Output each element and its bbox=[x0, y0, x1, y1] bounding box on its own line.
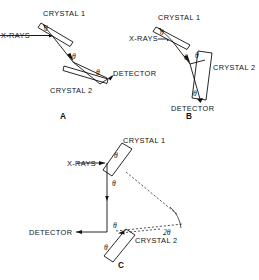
panel-b-crystal-1-label: CRYSTAL 1 bbox=[158, 13, 200, 22]
panel-a-theta-3: θ bbox=[96, 68, 100, 77]
panel-a-xrays-label: X-RAYS bbox=[1, 31, 30, 40]
panel-b-theta-4: θ bbox=[193, 89, 197, 98]
xray-diffractometer-figure: X-RAYS CRYSTAL 1 CRYSTAL 2 DETECTOR θ θ … bbox=[0, 0, 259, 280]
panel-c: X-RAYS CRYSTAL 1 CRYSTAL 2 DETECTOR 2θ θ… bbox=[29, 136, 183, 270]
panel-c-two-theta-arc bbox=[170, 207, 181, 228]
panel-c-theta-3: θ bbox=[113, 221, 117, 230]
panel-b-crystal-2-label: CRYSTAL 2 bbox=[213, 63, 255, 72]
panel-c-detector-label: DETECTOR bbox=[29, 228, 72, 237]
panel-c-crystal-2 bbox=[104, 229, 135, 262]
panel-a-theta-1: θ bbox=[44, 24, 48, 33]
panel-c-theta-1: θ bbox=[114, 151, 118, 160]
panel-a-crystal-2 bbox=[63, 66, 108, 84]
panel-a-crystal-2-label: CRYSTAL 2 bbox=[50, 86, 92, 95]
panel-c-detector-arrowhead bbox=[76, 230, 82, 234]
panel-c-dashed-line-2 bbox=[116, 224, 183, 231]
panel-a-crystal-1-label: CRYSTAL 1 bbox=[43, 9, 85, 18]
panel-c-xrays-label: X-RAYS bbox=[67, 159, 96, 168]
panel-b-theta-3: θ bbox=[195, 51, 199, 60]
panel-c-dashed-arrowhead bbox=[118, 231, 125, 235]
panel-c-crystal-1-label: CRYSTAL 1 bbox=[123, 136, 165, 145]
panel-c-theta-2: θ bbox=[112, 179, 116, 188]
panel-b-detector-label: DETECTOR bbox=[171, 104, 214, 113]
panel-c-theta-4: θ bbox=[104, 243, 108, 252]
panel-c-caption: C bbox=[118, 261, 124, 270]
panel-b-theta-1: θ bbox=[160, 28, 164, 37]
panel-b-theta-2: θ bbox=[184, 53, 188, 62]
panel-b-crystal-1 bbox=[153, 27, 190, 50]
panel-a: X-RAYS CRYSTAL 1 CRYSTAL 2 DETECTOR θ θ … bbox=[0, 9, 156, 121]
panel-a-theta-2: θ bbox=[72, 52, 76, 61]
panel-c-incident-arrowhead bbox=[99, 161, 105, 165]
panel-a-caption: A bbox=[60, 112, 66, 121]
panel-c-crystal-2-label: CRYSTAL 2 bbox=[135, 236, 177, 245]
figure-canvas: X-RAYS CRYSTAL 1 CRYSTAL 2 DETECTOR θ θ … bbox=[0, 0, 259, 280]
panel-b-caption: B bbox=[186, 112, 192, 121]
panel-a-detector-label: DETECTOR bbox=[113, 69, 156, 78]
panel-c-two-theta-label: 2θ bbox=[163, 228, 171, 237]
panel-c-vertical-beam-arrowhead bbox=[105, 196, 109, 201]
panel-b: X-RAYS CRYSTAL 1 CRYSTAL 2 DETECTOR θ θ … bbox=[129, 13, 255, 121]
panel-b-xrays-label: X-RAYS bbox=[129, 34, 158, 43]
panel-c-dashed-line-1 bbox=[126, 172, 178, 215]
